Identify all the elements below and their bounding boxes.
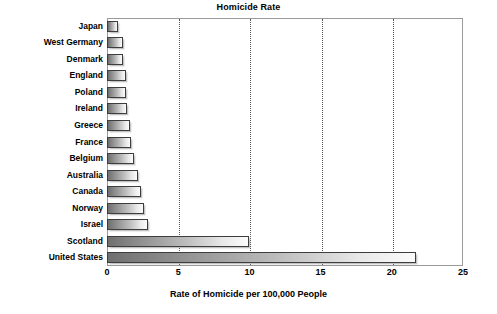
category-label: Australia: [0, 171, 103, 180]
bar: [107, 37, 123, 48]
category-label: Israel: [0, 220, 103, 229]
x-tick-label: 25: [458, 268, 468, 277]
bar-row: [107, 54, 463, 65]
bar: [107, 54, 123, 65]
bar: [107, 103, 127, 114]
bar: [107, 21, 118, 32]
category-label: Poland: [0, 88, 103, 97]
bar: [107, 186, 141, 197]
bar-row: [107, 170, 463, 181]
bar-row: [107, 137, 463, 148]
chart-title: Homicide Rate: [0, 2, 497, 12]
bar: [107, 70, 126, 81]
bar-row: [107, 153, 463, 164]
category-label: Canada: [0, 187, 103, 196]
category-label: Norway: [0, 204, 103, 213]
category-label: England: [0, 71, 103, 80]
x-tick-label: 0: [104, 268, 109, 277]
category-label: West Germany: [0, 38, 103, 47]
bar-row: [107, 37, 463, 48]
bar-row: [107, 186, 463, 197]
bar-row: [107, 219, 463, 230]
category-label: United States: [0, 253, 103, 262]
bar-row: [107, 21, 463, 32]
bar: [107, 203, 144, 214]
bar: [107, 170, 138, 181]
bar: [107, 219, 148, 230]
bar: [107, 87, 126, 98]
category-label: France: [0, 138, 103, 147]
category-label: Belgium: [0, 154, 103, 163]
bar-row: [107, 252, 463, 263]
x-tick-label: 10: [244, 268, 254, 277]
category-label: Greece: [0, 121, 103, 130]
x-tick-label: 5: [176, 268, 181, 277]
x-tick-label: 15: [316, 268, 326, 277]
homicide-rate-chart: Homicide Rate JapanWest GermanyDenmarkEn…: [0, 0, 497, 314]
bars-layer: [107, 18, 463, 266]
bar: [107, 252, 416, 263]
x-axis-title: Rate of Homicide per 100,000 People: [0, 289, 497, 299]
bar-row: [107, 87, 463, 98]
category-axis-labels: JapanWest GermanyDenmarkEnglandPolandIre…: [0, 18, 103, 266]
category-label: Denmark: [0, 55, 103, 64]
bar-row: [107, 103, 463, 114]
bar: [107, 120, 130, 131]
bar: [107, 153, 134, 164]
value-axis-tick-labels: 0510152025: [0, 268, 497, 282]
category-label: Scotland: [0, 237, 103, 246]
bar-row: [107, 203, 463, 214]
category-label: Japan: [0, 22, 103, 31]
x-tick-label: 20: [387, 268, 397, 277]
bar-row: [107, 236, 463, 247]
bar: [107, 137, 131, 148]
bar-row: [107, 70, 463, 81]
bar-row: [107, 120, 463, 131]
bar: [107, 236, 249, 247]
category-label: Ireland: [0, 104, 103, 113]
